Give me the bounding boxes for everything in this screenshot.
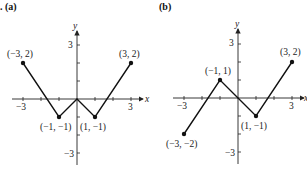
x-tick-label-neg3: −3 — [177, 101, 187, 111]
graph-a: . (a) x y −3 3 3 −3 (−3, 2) (−1, −1) (1,… — [0, 1, 150, 165]
point-label: (−1, −1) — [40, 122, 71, 133]
y-tick-label-neg3: −3 — [225, 148, 235, 158]
x-tick-label-3: 3 — [128, 102, 133, 112]
point-label: (−3, 2) — [7, 49, 33, 60]
y-tick-label-neg3: −3 — [64, 149, 74, 159]
y-axis-label: y — [234, 19, 240, 29]
graph-b: (b) x y −3 3 3 −3 (−3, −2) (−1, 1) (1, −… — [159, 1, 307, 164]
panel-label-b: (b) — [159, 1, 171, 13]
x-axis-label: x — [303, 93, 307, 103]
point-label: (3, 2) — [280, 47, 301, 58]
point-label: (−1, 1) — [205, 66, 231, 77]
figure: . (a) x y −3 3 3 −3 (−3, 2) (−1, −1) (1,… — [0, 0, 307, 171]
point-label: (−3, −2) — [166, 139, 197, 150]
panel-label-a: . (a) — [0, 1, 17, 13]
y-tick-label-3: 3 — [229, 38, 234, 48]
point-label: (1, −1) — [80, 122, 106, 133]
point-label: (3, 2) — [119, 49, 140, 60]
x-tick-label-3: 3 — [289, 101, 294, 111]
y-tick-label-3: 3 — [68, 40, 73, 50]
point-label: (1, −1) — [241, 121, 267, 132]
y-axis-label: y — [72, 21, 78, 31]
x-tick-label-neg3: −3 — [16, 102, 26, 112]
x-axis-label: x — [144, 94, 150, 104]
